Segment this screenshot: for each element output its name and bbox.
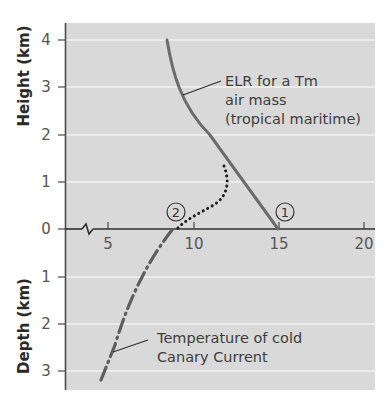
x-tick-label-15: 15	[269, 235, 288, 253]
elr-annotation-line1: ELR for a Tm	[225, 73, 318, 89]
y-ticks	[58, 40, 65, 371]
x-tick-label-10: 10	[184, 235, 203, 253]
canary-annotation-line1: Temperature of cold	[156, 330, 302, 346]
height-tick-label-2: 2	[41, 126, 51, 144]
marker-1-label: 1	[281, 205, 289, 220]
depth-axis-title: Depth (km)	[15, 278, 33, 374]
height-tick-label-4: 4	[41, 31, 51, 49]
chart: 5 10 15 20 4 3 2 1 0 1 2 3 Height (km) D…	[0, 0, 389, 405]
height-tick-label-0: 0	[41, 220, 51, 238]
depth-tick-label-2: 2	[41, 315, 51, 333]
depth-tick-label-1: 1	[41, 268, 51, 286]
canary-annotation-line2: Canary Current	[157, 349, 268, 365]
elr-annotation-line3: (tropical maritime)	[225, 111, 361, 127]
x-tick-label-5: 5	[103, 235, 113, 253]
marker-2-label: 2	[172, 205, 180, 220]
height-axis-title: Height (km)	[15, 26, 33, 127]
elr-annotation-line2: air mass	[225, 92, 287, 108]
x-tick-label-20: 20	[354, 235, 373, 253]
height-tick-label-1: 1	[41, 173, 51, 191]
height-tick-label-3: 3	[41, 78, 51, 96]
depth-tick-label-3: 3	[41, 362, 51, 380]
